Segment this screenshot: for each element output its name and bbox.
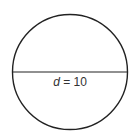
circle-diagram: d = 10: [0, 0, 135, 134]
diameter-label: d = 10: [53, 75, 87, 89]
diameter-value: 10: [74, 75, 88, 89]
equals-sign: =: [60, 75, 74, 89]
